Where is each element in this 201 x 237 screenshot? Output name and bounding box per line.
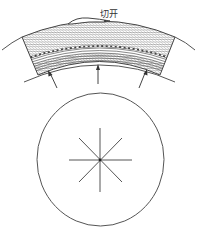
- star-center-dot: [99, 159, 102, 162]
- arrow-left: [48, 70, 57, 88]
- arrow-center: [96, 64, 100, 84]
- outer-arc-left: [2, 37, 22, 50]
- diagram-canvas: 切开: [0, 0, 201, 237]
- incision-mark: [104, 20, 106, 22]
- arrow-right: [139, 69, 148, 88]
- outer-arc-right: [175, 37, 195, 50]
- incision-label: 切开: [100, 9, 118, 19]
